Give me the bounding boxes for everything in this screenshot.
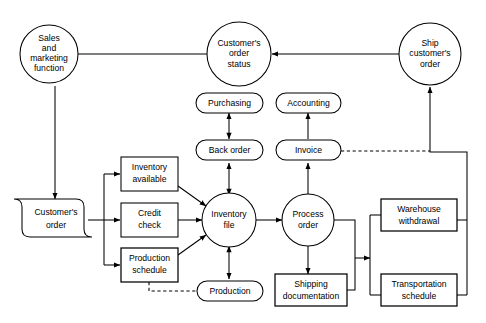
node-transportation-schedule[interactable]: Transportation schedule [381,274,457,306]
node-accounting[interactable]: Accounting [276,93,341,113]
node-label-line: Invoice [295,145,322,155]
node-back-order[interactable]: Back order [196,140,263,160]
node-label-line: file [224,220,235,230]
node-label-line: check [138,220,161,230]
edge-process-order-to-distribution-bus [331,220,355,258]
node-customers-order-status[interactable]: Customer's order status [207,22,271,86]
node-label-line: Inventory [132,162,168,172]
node-label-line: Sales [38,33,60,43]
node-label-line: status [228,59,251,69]
node-label-line: Production [129,253,170,263]
node-label-line: Warehouse [397,204,441,214]
node-label-line: order [420,59,440,69]
node-invoice[interactable]: Invoice [276,140,341,160]
node-label-line: Shipping [294,279,328,289]
edge-shipping-documentation-to-distribution-bus [347,258,355,290]
node-inventory-file[interactable]: Inventory file [202,193,256,247]
node-credit-check[interactable]: Credit check [121,203,178,237]
diagram-canvas: Sales and marketing function Customer's … [0,0,486,323]
node-label-line: schedule [402,291,437,301]
node-label-line: Transportation [391,279,446,289]
node-ship-customers-order[interactable]: Ship customer's order [399,23,461,85]
node-label-line: documentation [283,291,340,301]
node-label-line: Credit [138,208,162,218]
node-label-line: Accounting [287,98,330,108]
node-label-line: Production [209,286,250,296]
node-label-line: Ship [421,38,438,48]
node-label-line: and [42,43,57,53]
edge-production-schedule-to-inventory-file [178,235,206,255]
node-production-schedule[interactable]: Production schedule [121,248,178,282]
node-label-line: order [46,220,66,230]
node-label-line: Customer's [217,38,260,48]
node-label-line: Process [292,209,323,219]
diagram-svg: Sales and marketing function Customer's … [0,0,486,323]
node-label-line: Inventory [211,209,247,219]
node-label-line: Back order [209,145,251,155]
node-label-line: order [229,48,249,58]
node-label-line: available [133,174,167,184]
edge-inventory-available-to-inventory-file [178,186,206,206]
node-warehouse-withdrawal[interactable]: Warehouse withdrawal [381,199,457,231]
node-label-line: order [298,220,318,230]
node-label-line: withdrawal [398,216,440,226]
node-inventory-available[interactable]: Inventory available [121,157,178,191]
node-sales-and-marketing-function[interactable]: Sales and marketing function [20,25,78,83]
node-label-line: customer's [409,48,450,58]
node-label-line: Customer's [34,207,77,217]
node-label-line: marketing [30,53,68,63]
node-production[interactable]: Production [197,281,263,301]
node-process-order[interactable]: Process order [282,194,334,246]
node-label-line: schedule [132,265,167,275]
node-purchasing[interactable]: Purchasing [196,93,263,113]
edge-return-bus-to-ship-order [430,87,467,295]
node-customers-order[interactable]: Customer's order [14,199,92,237]
node-label-line: Purchasing [208,98,251,108]
node-label-line: function [34,63,64,73]
node-shipping-documentation[interactable]: Shipping documentation [275,274,347,306]
edge-production-schedule-to-production-dashed [149,282,197,291]
